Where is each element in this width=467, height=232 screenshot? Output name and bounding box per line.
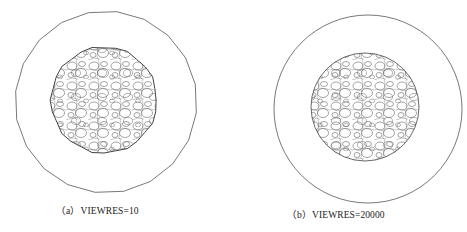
caption-b: （b）VIEWRES=20000 [287, 207, 385, 221]
caption-a: （a）VIEWRES=10 [56, 203, 139, 217]
panel-b [274, 15, 462, 203]
aggregate-disc-a [50, 48, 156, 154]
panel-a [16, 12, 197, 193]
figure-drawing [0, 0, 467, 232]
aggregate-disc-b [311, 53, 419, 161]
